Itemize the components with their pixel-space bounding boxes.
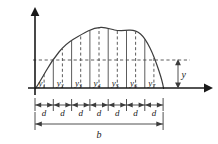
mid-ordinate-diagram: y1 y2 y3 y4 y5 y6 y7 d d d bbox=[0, 0, 218, 144]
d-label-2: d bbox=[60, 108, 65, 118]
d-label-5: d bbox=[115, 108, 120, 118]
d-label-3: d bbox=[78, 108, 83, 118]
d-label-7: d bbox=[152, 108, 157, 118]
vertical-axis-arrow-icon bbox=[31, 7, 40, 16]
d-segment-labels: d d d d d d d bbox=[42, 108, 157, 118]
horizontal-axis-arrow-icon bbox=[204, 83, 213, 92]
b-dimension-label: b bbox=[97, 129, 102, 140]
ordinate-label-y7: y7 bbox=[147, 78, 156, 89]
figure-container: y1 y2 y3 y4 y5 y6 y7 d d d bbox=[0, 0, 218, 144]
b-dimension-arrow-right-icon bbox=[156, 121, 162, 126]
right-y-dimension-label: y bbox=[181, 69, 187, 80]
d-label-1: d bbox=[42, 108, 47, 118]
d-label-4: d bbox=[97, 108, 102, 118]
b-dimension-arrow-left-icon bbox=[35, 121, 41, 126]
d-label-6: d bbox=[133, 108, 138, 118]
